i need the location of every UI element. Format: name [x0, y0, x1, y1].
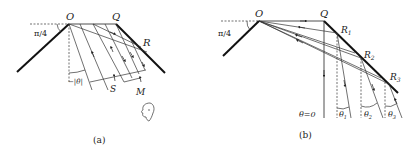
- label-R-a: R: [142, 37, 151, 48]
- right-mirror-b: [324, 21, 398, 93]
- label-theta3: θ3: [388, 110, 396, 120]
- angle-arc-theta2: [361, 103, 377, 107]
- label-M: M: [135, 87, 146, 97]
- angle-arc-theta1: [337, 107, 349, 109]
- label-S: S: [110, 84, 116, 94]
- panel-b: O Q π/4 R1 R2 R3 θ=0 θ1 θ2 θ3 (b): [218, 8, 402, 140]
- label-angle-pi4-a: π/4: [34, 29, 47, 38]
- angle-arc-pi4-b: [247, 21, 250, 30]
- arrow-up-2: [111, 47, 113, 52]
- wavefront-S: [90, 70, 146, 82]
- caption-b: (b): [299, 130, 312, 140]
- optics-diagram: O Q R S M π/4 −|θ| (a): [0, 0, 416, 156]
- ray-O-R3b: [259, 21, 381, 78]
- arrow-M: [140, 77, 141, 82]
- ray-O-to-R: [69, 24, 147, 52]
- label-theta1: θ1: [339, 110, 347, 120]
- ray-a5: [116, 24, 139, 74]
- arrow-up-1: [92, 52, 94, 57]
- arrow-S: [114, 75, 115, 81]
- angle-arc-theta: [69, 70, 85, 73]
- label-angle-pi4-b: π/4: [218, 29, 231, 38]
- label-theta0: θ=0: [299, 110, 316, 119]
- caption-a: (a): [93, 135, 105, 145]
- label-R3: R3: [389, 72, 401, 83]
- wavefront-lower: [124, 78, 140, 82]
- label-R2: R2: [363, 50, 375, 61]
- label-Q-b: Q: [320, 8, 328, 19]
- ray-a4: [105, 24, 132, 78]
- label-O-a: O: [66, 11, 74, 22]
- label-theta2: θ2: [364, 110, 372, 120]
- label-O-b: O: [255, 8, 263, 19]
- angle-arc-theta3: [385, 104, 396, 107]
- arrow-R1: [299, 27, 305, 28]
- right-mirror: [116, 24, 165, 73]
- left-mirror-b: [223, 21, 259, 56]
- observer-face-icon: [142, 103, 155, 121]
- label-Q-a: Q: [112, 11, 120, 22]
- panel-a: O Q R S M π/4 −|θ| (a): [17, 11, 165, 145]
- label-R1: R1: [340, 25, 352, 36]
- label-theta-abs: −|θ|: [68, 78, 83, 86]
